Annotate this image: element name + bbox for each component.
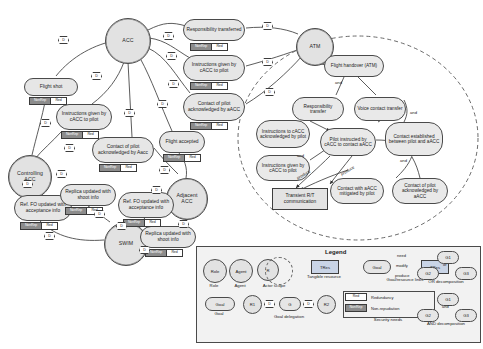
badges-ref-fo-acceptance-mid: NonRep Red xyxy=(123,219,161,227)
goal-flight-handover-atm[interactable]: Flight handover (ATM) xyxy=(324,55,384,77)
goal-instructions-cacc-pilot-top[interactable]: Instructions given by cACC to pilot xyxy=(183,55,245,81)
delegation-marker[interactable]: D xyxy=(22,180,33,188)
goal-label: Contact of pilot acknowledged by aACC xyxy=(395,183,445,199)
resource-transient-rt-communication[interactable]: Transient R/T communication xyxy=(272,188,328,210)
delegation-marker[interactable]: D xyxy=(163,32,174,40)
delegation-marker[interactable]: D xyxy=(116,222,127,230)
delegation-marker[interactable]: D xyxy=(91,72,102,80)
actor-controlling-acc[interactable]: Controlling ACC xyxy=(8,155,52,199)
badge-red[interactable]: Red xyxy=(51,97,67,105)
badge-nonrep[interactable]: NonRep xyxy=(99,164,121,172)
badges-flight-shot: NonRep Red xyxy=(29,97,67,105)
badge-red[interactable]: Red xyxy=(212,122,228,130)
badge-nonrep[interactable]: NonRep xyxy=(20,222,42,230)
goal-label: Instructions to cACC acknowledged by pil… xyxy=(259,129,307,140)
badge-red[interactable]: Red xyxy=(121,164,137,172)
goal-label: Contact established between pilot and aA… xyxy=(388,134,440,145)
goal-instructions-ack-pilot[interactable]: Instructions to cACC acknowledged by pil… xyxy=(256,120,310,148)
delegation-marker[interactable]: D xyxy=(151,186,162,194)
delegation-marker[interactable]: D xyxy=(64,144,75,152)
delegation-marker[interactable]: D xyxy=(166,52,177,60)
badges-instructions-cacc-pilot-mid: NonRep Red xyxy=(61,131,99,139)
actor-acc-label: ACC xyxy=(122,38,133,44)
delegation-marker[interactable]: D xyxy=(157,100,168,108)
delegation-marker[interactable]: D xyxy=(124,109,135,117)
badge-nonrep[interactable]: NonRep xyxy=(190,43,212,51)
delegation-marker[interactable]: D xyxy=(168,80,179,88)
badge-nonrep[interactable]: NonRep xyxy=(61,131,83,139)
goal-label: Flight handover (ATM) xyxy=(331,63,377,68)
badge-nonrep[interactable]: NonRep xyxy=(190,82,212,90)
delegation-marker[interactable]: D xyxy=(58,36,69,44)
delegation-marker[interactable]: D xyxy=(139,246,150,254)
goal-voice-contact-transfer[interactable]: Voice contact transfer xyxy=(354,97,406,121)
delegation-marker[interactable]: D xyxy=(56,170,67,178)
badge-red[interactable]: Red xyxy=(167,249,183,257)
legend-decomposition-lines xyxy=(197,247,483,349)
goal-instructions-cacc-pilot-mid[interactable]: Instructions given by cACC to pilot xyxy=(56,104,112,130)
delegation-marker[interactable]: D xyxy=(44,232,55,240)
badge-red[interactable]: Red xyxy=(185,154,201,162)
badges-contact-ack-aacc-top: NonRep Red xyxy=(190,122,228,130)
actor-swim[interactable]: SWIM xyxy=(104,222,148,266)
badge-red[interactable]: Red xyxy=(83,131,99,139)
badges-instructions-cacc-pilot-top: NonRep Red xyxy=(190,82,228,90)
delegation-marker[interactable]: D xyxy=(262,58,273,66)
goal-label: Contact with aACC mitigated by pilot xyxy=(333,186,381,197)
goal-contact-ack-aacc-top[interactable]: Contact of pilot acknowledged by aACC xyxy=(183,93,245,121)
goal-replica-shoot-right[interactable]: Replica updated with shoot info xyxy=(140,226,196,248)
badges-ref-fo-acceptance-left: NonRep Red xyxy=(20,222,58,230)
goal-contact-ack-aacc-mid[interactable]: Contact of pilot acknowledged by Aacc xyxy=(92,137,154,163)
goal-label: Responsibility transferred xyxy=(186,27,241,33)
goal-contact-mitigated[interactable]: Contact with aACC mitigated by pilot xyxy=(330,178,384,204)
edge-label-and-2: and xyxy=(297,153,304,158)
goal-contact-ack-aacc-inner[interactable]: Contact of pilot acknowledged by aACC xyxy=(392,178,448,204)
edge-label-and-1: and xyxy=(335,80,342,85)
goal-label: Pilot instructed by cACC to contact aACC xyxy=(323,137,373,148)
badge-red[interactable]: Red xyxy=(42,222,58,230)
badge-nonrep[interactable]: NonRep xyxy=(29,97,51,105)
delegation-marker[interactable]: D xyxy=(178,220,189,228)
legend-panel: Legend Role Role Agent Agent R Actor sco… xyxy=(196,246,481,343)
edge-label-and-3: and xyxy=(400,158,407,163)
delegation-marker[interactable]: D xyxy=(159,166,170,174)
actor-swim-label: SWIM xyxy=(119,241,134,247)
delegation-marker[interactable]: D xyxy=(94,210,105,218)
delegation-marker[interactable]: D xyxy=(40,119,51,127)
goal-label: Voice contact transfer xyxy=(357,106,402,111)
badges-flight-accepted: NonRep Red xyxy=(163,154,201,162)
goal-contact-established[interactable]: Contact established between pilot and aA… xyxy=(385,122,443,156)
goal-label: Instructions given by cACC to pilot xyxy=(259,163,307,174)
goal-label: Instructions given by cACC to pilot xyxy=(59,111,109,122)
badges-responsibility-transferred: NonRep Red xyxy=(190,43,228,51)
goal-label: Replica updated with shoot info xyxy=(143,231,193,242)
delegation-marker[interactable]: D xyxy=(264,88,275,96)
resource-label: Transient R/T communication xyxy=(273,193,327,204)
goal-label: Contact of pilot acknowledged by aACC xyxy=(186,101,242,112)
goal-label: Responsibility transfer xyxy=(295,104,341,115)
actor-acc[interactable]: ACC xyxy=(105,18,151,64)
badge-red[interactable]: Red xyxy=(212,43,228,51)
goal-label: Ref. FO updated with acceptance info xyxy=(121,199,171,210)
goal-label: Flight shot xyxy=(40,84,63,90)
badge-red[interactable]: Red xyxy=(212,82,228,90)
goal-ref-fo-acceptance-mid[interactable]: Ref. FO updated with acceptance info xyxy=(118,192,174,218)
goal-label: Contact of pilot acknowledged by Aacc xyxy=(95,144,151,155)
goal-label: Replica updated with shoot info xyxy=(63,189,113,200)
goal-replica-shoot-mid[interactable]: Replica updated with shoot info xyxy=(60,184,116,206)
badge-nonrep[interactable]: NonRep xyxy=(65,207,87,215)
goal-flight-shot[interactable]: Flight shot xyxy=(24,78,78,96)
goal-flight-accepted[interactable]: Flight accepted xyxy=(159,131,205,153)
badge-red[interactable]: Red xyxy=(145,219,161,227)
delegation-marker[interactable]: D xyxy=(262,22,273,30)
goal-label: Instructions given by cACC to pilot xyxy=(186,62,242,73)
badge-nonrep[interactable]: NonRep xyxy=(163,154,185,162)
badges-replica-shoot-right: NonRep Red xyxy=(145,249,183,257)
actor-adjacent-acc-label: Adjacent ACC xyxy=(177,193,198,205)
goal-responsibility-transferred[interactable]: Responsibility transferred xyxy=(183,19,245,41)
actor-atm-label: ATM xyxy=(310,44,321,50)
goal-responsibility-transfer[interactable]: Responsibility transfer xyxy=(292,97,344,121)
badge-nonrep[interactable]: NonRep xyxy=(190,122,212,130)
goal-label: Ref. FO updated with acceptance info xyxy=(17,202,69,213)
goal-pilot-instructed[interactable]: Pilot instructed by cACC to contact aACC xyxy=(320,128,376,156)
